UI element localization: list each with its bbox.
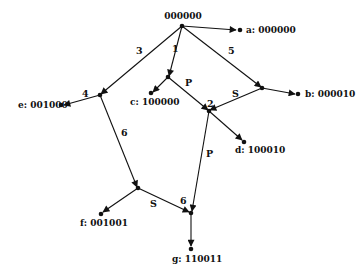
leaf-b-node [296, 92, 301, 97]
edge-label-2: 2 [207, 98, 214, 109]
leaf-a-node [238, 28, 243, 33]
leaf-e-label: e: 001000 [18, 100, 68, 110]
edge-root-to-nb [182, 26, 261, 87]
edge-n2-to-d [209, 111, 242, 140]
leaf-b-label: b: 000010 [305, 89, 355, 99]
edges [64, 26, 295, 246]
node-6a [136, 186, 141, 191]
leaf-g-node [189, 247, 194, 252]
leaf-g-label: g: 110011 [172, 254, 222, 264]
root-node [180, 24, 185, 29]
edge-nb-to-b [262, 88, 295, 94]
edge-label-s2: S [232, 88, 239, 99]
edge-nf-to-f [103, 188, 138, 212]
node-5 [260, 86, 265, 91]
leaf-d-node [242, 140, 247, 145]
edge-root-to-n4 [101, 26, 182, 94]
leaf-f-node [99, 212, 104, 217]
edge-n4-to-nf [100, 95, 137, 187]
node-4 [98, 93, 103, 98]
edge-label-s6: S [150, 198, 157, 209]
leaf-c-label: c: 100000 [130, 97, 180, 107]
edge-label-1: 1 [172, 43, 179, 54]
node-1 [166, 75, 171, 80]
leaf-a-label: a: 000000 [246, 25, 296, 35]
node-2 [207, 109, 212, 114]
edge-label-p1: P [185, 77, 192, 88]
edge-label-3: 3 [136, 45, 143, 56]
edge-label-5: 5 [228, 45, 235, 56]
root-label: 000000 [164, 11, 202, 21]
leaf-d-label: d: 100010 [235, 145, 285, 155]
edge-root-to-a [182, 26, 236, 30]
edge-label-6b: 6 [180, 195, 187, 206]
edge-label-6a: 6 [121, 127, 128, 138]
state-tree-diagram: 000000 1 3 5 4 P S 2 6 P S 6 a: 000000 b… [0, 0, 360, 274]
edge-label-p2: P [206, 148, 213, 159]
leaf-f-label: f: 001001 [80, 218, 128, 228]
edge-n1-to-c [153, 77, 168, 92]
leaf-c-node [149, 91, 154, 96]
edge-label-4: 4 [82, 88, 89, 99]
node-6b [189, 211, 194, 216]
edge-n2-to-n6 [192, 111, 209, 211]
